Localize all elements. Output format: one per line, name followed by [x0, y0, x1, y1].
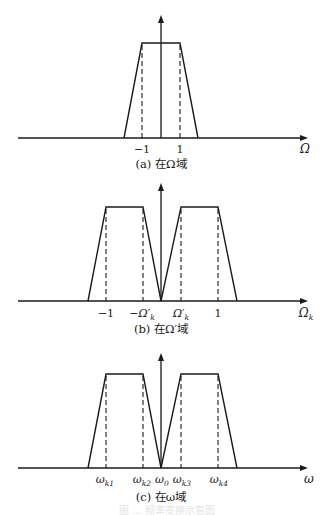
panel-a-x-arrow-icon: [300, 135, 308, 141]
panel-c-tick-omega-k4: ωk4: [210, 473, 229, 488]
panel-b-tick-omega-k: Ω′k: [172, 307, 190, 322]
panel-c-tick-omega-0: ω0: [155, 473, 169, 488]
panel-a: −1 1 Ω (a) 在Ω域: [18, 15, 310, 171]
panel-c-tick-omega-k1: ωk1: [96, 473, 114, 488]
panel-a-caption: (a) 在Ω域: [135, 157, 187, 171]
panel-b-dual-trapezoid-response: [88, 207, 237, 301]
panel-c-caption: (c) 在ω域: [136, 490, 187, 504]
panel-b-caption: (b) 在Ω′域: [134, 322, 189, 336]
panel-c-dual-trapezoid-response: [88, 374, 237, 468]
panel-b-tick-neg1: −1: [98, 307, 114, 320]
panel-c: ωk1 ωk2 ω0 ωk3 ωk4 ω (c) 在ω域: [18, 353, 314, 504]
panel-b-tick-neg-omega-k: −Ω′k: [129, 307, 155, 322]
panel-a-axis-label: Ω: [299, 142, 310, 156]
panel-a-tick-neg1: −1: [134, 143, 150, 156]
panel-c-y-arrow-icon: [158, 353, 164, 361]
panel-a-tick-pos1: 1: [177, 143, 184, 156]
figure-footer-caption: 图 … 频率变换示意图: [119, 504, 215, 515]
frequency-transform-diagram: −1 1 Ω (a) 在Ω域 −1 −Ω′k Ω′k 1 Ωk (b) 在Ω′域…: [0, 0, 334, 515]
panel-b-axis-label: Ωk: [298, 306, 314, 322]
panel-b-y-arrow-icon: [158, 183, 164, 191]
panel-c-tick-omega-k2: ωk2: [133, 473, 152, 488]
panel-c-axis-label: ω: [304, 472, 314, 486]
panel-a-y-arrow-icon: [158, 15, 164, 23]
panel-c-tick-omega-k3: ωk3: [173, 473, 192, 488]
panel-b-tick-pos1: 1: [215, 307, 222, 320]
panel-b: −1 −Ω′k Ω′k 1 Ωk (b) 在Ω′域: [18, 183, 314, 336]
panel-b-x-arrow-icon: [300, 298, 308, 304]
panel-c-x-arrow-icon: [300, 465, 308, 471]
